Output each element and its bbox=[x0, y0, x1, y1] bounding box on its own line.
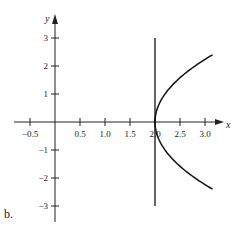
y-tick-label: 2 bbox=[44, 61, 49, 71]
x-tick-label: 1.5 bbox=[124, 129, 136, 139]
y-tick-label: 3 bbox=[44, 33, 49, 43]
x-axis-label: x bbox=[225, 119, 231, 130]
y-tick-label: −3 bbox=[38, 201, 48, 211]
y-tick-label: 1 bbox=[44, 89, 49, 99]
chart-plot-area: xy−0.50.51.01.52.02.53.0−3−2−1123 bbox=[0, 0, 239, 231]
x-axis-arrow-icon bbox=[215, 119, 224, 125]
x-tick-label: −0.5 bbox=[22, 129, 39, 139]
y-axis-label: y bbox=[44, 13, 50, 24]
y-tick-label: −1 bbox=[38, 145, 48, 155]
x-tick-label: 3.0 bbox=[199, 129, 211, 139]
x-tick-label: 1.0 bbox=[99, 129, 111, 139]
x-tick-label: 0.5 bbox=[74, 129, 86, 139]
panel-label: b. bbox=[4, 207, 13, 222]
y-tick-label: −2 bbox=[38, 173, 48, 183]
y-axis-arrow-icon bbox=[52, 14, 58, 24]
x-tick-label: 2.5 bbox=[174, 129, 186, 139]
